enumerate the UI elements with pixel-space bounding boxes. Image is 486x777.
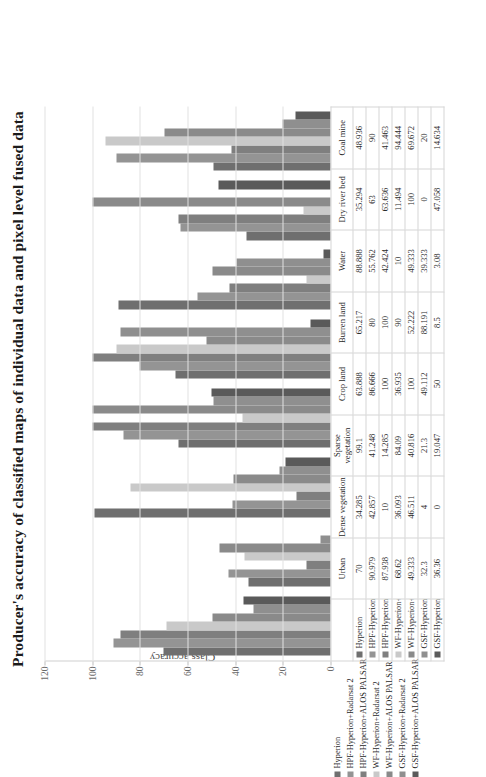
bar	[105, 136, 330, 145]
table-cell: 46.511	[405, 476, 418, 538]
table-cell: 39.333	[418, 230, 431, 292]
table-row-label: WF-Hyperion+Radarsat 2	[393, 599, 402, 648]
y-tick-label: 60	[182, 666, 192, 676]
table-cell: 36.935	[392, 353, 405, 415]
legend-item[interactable]: HPF-Hyperion+ALOS PALSAR	[356, 659, 369, 777]
legend-label: GSF-Hyperion+Radarsat 2	[395, 678, 408, 768]
series-swatch-icon	[395, 651, 401, 657]
bar	[130, 483, 330, 492]
table-cell: 10	[379, 476, 392, 538]
bar	[320, 535, 330, 544]
bar	[123, 430, 330, 439]
bar	[178, 214, 330, 223]
data-table-wrapper: UrbanDense vegetationSparse vegetationCr…	[330, 106, 444, 661]
legend-swatch-icon	[412, 771, 418, 777]
bar	[213, 162, 330, 171]
legend-swatch-icon	[347, 771, 353, 777]
table-row-header: WF-Hyperion+ALOS PALSAR	[405, 599, 418, 661]
series-swatch-icon	[421, 651, 427, 657]
table-header-row: UrbanDense vegetationSparse vegetationCr…	[331, 107, 353, 661]
table-row: Hyperion7034.28599.163.88865.21788.88835…	[353, 107, 366, 661]
bar	[116, 153, 331, 162]
gridline	[235, 106, 236, 660]
legend-label: Hyperion	[330, 736, 343, 768]
bar	[166, 621, 330, 630]
y-tick-label: 100	[87, 666, 97, 680]
bar	[212, 613, 330, 622]
table-column-header: Sparse vegetation	[331, 414, 353, 476]
series-swatch-icon	[369, 651, 375, 657]
table-cell: 70	[353, 537, 366, 599]
y-tick-mark	[235, 661, 236, 665]
legend-swatch-icon	[399, 771, 405, 777]
legend-swatch-icon	[373, 771, 379, 777]
bar	[295, 111, 330, 120]
bar	[306, 560, 330, 569]
bar	[120, 327, 330, 336]
y-tick-mark	[139, 661, 140, 665]
bar	[118, 300, 330, 309]
table-row: GSF-Hyperion+Radarsat 232.3421.349.11288…	[418, 107, 431, 661]
bar	[303, 206, 330, 215]
bar	[228, 569, 330, 578]
table-cell: 49.112	[418, 353, 431, 415]
bar	[231, 145, 330, 154]
table-column-header: Dry river bed	[331, 168, 353, 230]
table-cell: 100	[379, 291, 392, 353]
table-cell: 63.888	[353, 353, 366, 415]
y-tick-mark	[92, 661, 93, 665]
bar	[213, 396, 330, 405]
legend-item[interactable]: WF-Hyperion+ALOS PALSAR	[382, 659, 395, 777]
bar	[232, 500, 330, 509]
rotated-figure-wrapper: Producer's accuracy of classified maps o…	[0, 0, 486, 777]
table-cell: 100	[405, 353, 418, 415]
bar	[285, 457, 330, 466]
y-tick-label: 120	[39, 666, 49, 680]
legend-swatch-icon	[360, 771, 366, 777]
legend-swatch-icon	[386, 771, 392, 777]
bar	[310, 319, 330, 328]
table-cell: 99.1	[353, 414, 366, 476]
y-tick-mark	[282, 661, 283, 665]
bar	[212, 266, 330, 275]
y-tick-mark	[187, 661, 188, 665]
bar	[242, 413, 330, 422]
bar	[164, 128, 330, 137]
y-tick-label: 40	[230, 666, 240, 676]
table-cell: 48.936	[353, 107, 366, 169]
table-row-label: HPF-Hyperion+ALOS PALSAR	[380, 599, 389, 648]
table-cell: 84.09	[392, 414, 405, 476]
series-swatch-icon	[434, 651, 440, 657]
table-row-label: WF-Hyperion+ALOS PALSAR	[406, 599, 415, 648]
legend-label: WF-Hyperion+ALOS PALSAR	[382, 661, 395, 768]
plot-area: Class accuracy 020406080100120	[44, 106, 330, 661]
bar	[94, 508, 330, 517]
table-cell: 88.888	[353, 230, 366, 292]
table-row-header: GSF-Hyperion+Radarsat 2	[418, 599, 431, 661]
table-cell: 90	[366, 107, 379, 169]
bar	[296, 491, 330, 500]
bar	[279, 466, 330, 475]
table-cell: 0	[418, 168, 431, 230]
legend-item[interactable]: GSF-Hyperion+Radarsat 2	[395, 659, 408, 777]
series-swatch-icon	[382, 651, 388, 657]
gridline	[187, 106, 188, 660]
plot-inner	[44, 106, 330, 661]
bar	[211, 388, 330, 397]
bar	[116, 344, 331, 353]
table-column-header: Urban	[331, 537, 353, 599]
bar	[175, 370, 330, 379]
table-cell: 40.816	[405, 414, 418, 476]
legend-item[interactable]: GSF-Hyperion+ALOS PALSAR	[408, 659, 421, 777]
table-row-header: GSF-Hyperion+ALOS PALSAR	[431, 599, 444, 661]
table-cell: 100	[405, 168, 418, 230]
bar	[323, 249, 330, 258]
bar	[248, 577, 330, 586]
legend-item[interactable]: HPF-Hyperion+Radarsat 2	[343, 659, 356, 777]
gridline	[282, 106, 283, 660]
legend-item[interactable]: WF-Hyperion+Radarsat 2	[369, 659, 382, 777]
table-column-header: Burren land	[331, 291, 353, 353]
bar	[92, 353, 330, 362]
legend-item[interactable]: Hyperion	[330, 659, 343, 777]
table-cell: 42.424	[379, 230, 392, 292]
